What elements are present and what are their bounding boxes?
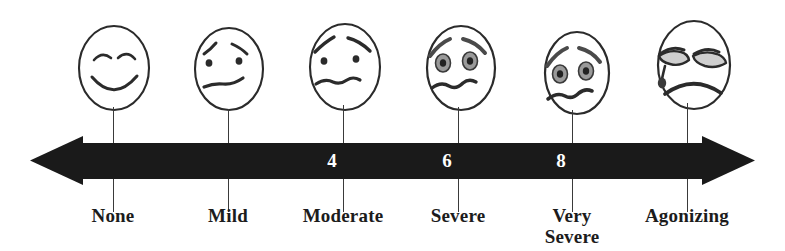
scale-label-very-severe-line2: Severe: [497, 226, 647, 247]
pain-scale-figure: 4 6 8 None Mild Moderate Severe Very Sev…: [0, 0, 785, 251]
scale-labels: None Mild Moderate Severe Very Severe Ag…: [0, 0, 785, 251]
scale-label-agonizing: Agonizing: [612, 205, 762, 226]
